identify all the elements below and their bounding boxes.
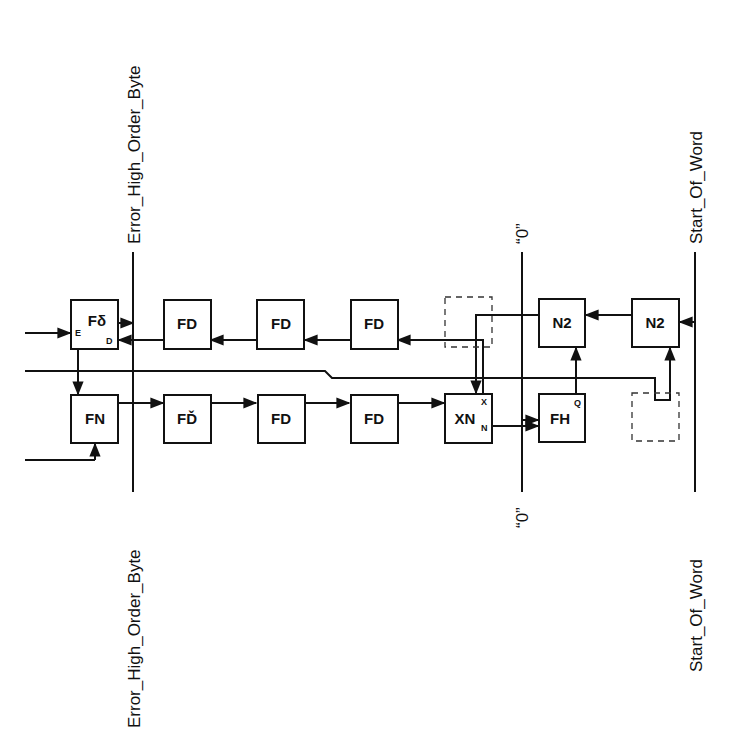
svg-text:N2: N2 bbox=[552, 314, 571, 331]
label-start-of-word-top: Start_Of_Word bbox=[687, 131, 706, 244]
wire-start-of-word-path bbox=[25, 348, 670, 400]
svg-text:FĎ: FĎ bbox=[177, 410, 197, 427]
svg-text:XN: XN bbox=[455, 410, 476, 427]
label-error-high-order-byte-bottom: Error_High_Order_Byte bbox=[125, 549, 144, 728]
block-bottom-fd-2: FD bbox=[258, 395, 305, 443]
block-n2-left: N2 bbox=[539, 299, 585, 347]
label-zero-bottom: “0” bbox=[513, 507, 532, 528]
svg-text:FD: FD bbox=[271, 410, 291, 427]
block-bottom-fd-3: FD bbox=[351, 395, 398, 443]
svg-text:N: N bbox=[481, 423, 488, 433]
svg-text:FD: FD bbox=[271, 315, 291, 332]
block-top-fd-3: FD bbox=[351, 300, 398, 349]
svg-text:Q: Q bbox=[574, 398, 581, 408]
svg-text:N2: N2 bbox=[645, 314, 664, 331]
svg-text:FN: FN bbox=[85, 410, 105, 427]
block-xn: XN N X bbox=[445, 394, 492, 443]
block-top-fd-1: FD bbox=[164, 300, 211, 349]
block-bottom-fd-1: FĎ bbox=[164, 395, 211, 443]
svg-text:Fδ: Fδ bbox=[88, 312, 106, 329]
block-diagram: Error_High_Order_Byte Error_High_Order_B… bbox=[0, 0, 733, 745]
block-f-delta: Fδ E D bbox=[71, 300, 118, 349]
block-fh: FH Q bbox=[539, 394, 585, 442]
block-fn: FN bbox=[71, 395, 118, 443]
svg-text:E: E bbox=[75, 328, 81, 338]
label-error-high-order-byte-top: Error_High_Order_Byte bbox=[125, 65, 144, 244]
svg-text:D: D bbox=[106, 336, 113, 346]
svg-text:FD: FD bbox=[364, 410, 384, 427]
label-start-of-word-bottom: Start_Of_Word bbox=[687, 559, 706, 672]
svg-text:X: X bbox=[481, 397, 487, 407]
svg-text:FD: FD bbox=[364, 315, 384, 332]
block-top-fd-2: FD bbox=[257, 300, 304, 349]
svg-text:FD: FD bbox=[177, 315, 197, 332]
svg-text:FH: FH bbox=[550, 410, 570, 427]
label-zero-top: “0” bbox=[513, 223, 532, 244]
block-n2-right: N2 bbox=[632, 299, 679, 347]
